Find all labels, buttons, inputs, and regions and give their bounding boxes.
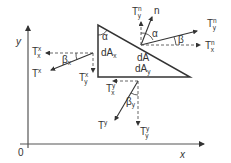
beta-x-label: βx [62,54,72,66]
Tn-vector [141,31,197,45]
normal-face-vectors: n α β Tny Tny Tnx [132,5,217,53]
dA-label: dA [137,52,150,63]
x-face-vectors: βx Txx Tx Txy [32,45,93,86]
beta-arc-normal [174,37,176,45]
Tny-top-label: Tny [132,5,142,20]
y-axis-label: y [15,36,22,47]
traction-diagram: y x 0 α dAx dA dAy n α β Tny Tny Tnx βx … [0,0,231,163]
Txx-label: Txx [32,45,42,59]
dAx-label: dAx [101,47,117,59]
beta-y-label: βy [126,96,136,109]
Tx-vector [51,53,93,70]
beta-arc-y [131,93,138,95]
alpha-normal-label: α [152,28,158,39]
alpha-element-label: α [102,31,108,42]
x-axis-label: x [179,149,186,160]
Tn-right-label: Tny [207,17,217,32]
normal-vector-n [141,17,152,45]
y-face-vectors: βy Tyx Ty Tyy [98,81,150,140]
Tx-label: Tx [32,67,42,79]
normal-label: n [154,5,160,16]
origin-label: 0 [18,147,24,158]
Tyy-label: Tyy [140,125,150,140]
Tnx-label: Tnx [205,39,215,53]
dAy-label: dAy [135,63,151,76]
beta-normal-label: β [178,34,184,45]
Txy-label: Txy [79,71,89,86]
Tyx-label: Tyx [106,82,116,96]
Ty-label: Ty [98,119,108,131]
beta-arc-x [76,53,77,60]
